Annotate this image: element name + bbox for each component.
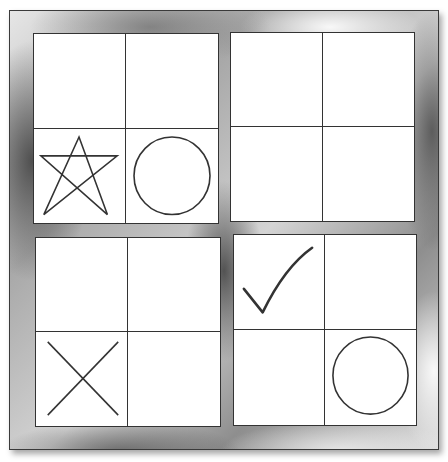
- cell-empty: [128, 238, 220, 332]
- cell-empty: [325, 235, 416, 330]
- cell-circle: circle: [126, 129, 218, 224]
- diagram-canvas: star circle: [0, 0, 448, 462]
- grid-bottom-left: cross: [35, 237, 221, 427]
- grid-top-right: [230, 32, 415, 222]
- cell-empty: [231, 127, 323, 221]
- cell-empty: [323, 33, 415, 127]
- cross-icon: [36, 332, 127, 426]
- circle-icon: [126, 129, 218, 224]
- checkmark-icon: [234, 235, 324, 329]
- cell-empty: [231, 33, 323, 127]
- grid-bottom-right: checkmark circle: [233, 234, 417, 426]
- grid-top-left: star circle: [33, 33, 219, 224]
- cell-checkmark: checkmark: [234, 235, 325, 330]
- circle-icon: [325, 330, 416, 425]
- cell-empty: [323, 127, 415, 221]
- cell-empty: [36, 238, 128, 332]
- star-icon: [34, 129, 125, 224]
- cell-empty: [234, 330, 325, 425]
- cell-cross: cross: [36, 332, 128, 426]
- cell-empty: [128, 332, 220, 426]
- cell-empty: [34, 34, 126, 129]
- cell-empty: [126, 34, 218, 129]
- cell-star: star: [34, 129, 126, 224]
- cell-circle: circle: [325, 330, 416, 425]
